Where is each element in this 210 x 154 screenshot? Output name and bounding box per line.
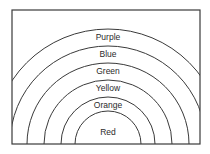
- band-label-blue: Blue: [99, 49, 116, 59]
- band-label-orange: Orange: [94, 100, 123, 110]
- diagram-frame: [12, 10, 200, 144]
- band-label-purple: Purple: [96, 32, 121, 42]
- rainbow-arc-diagram: Purple Blue Green Yellow Orange Red: [0, 0, 210, 154]
- band-label-red: Red: [100, 127, 116, 137]
- label-group: Purple Blue Green Yellow Orange Red: [94, 32, 123, 137]
- band-label-green: Green: [96, 66, 120, 76]
- band-label-yellow: Yellow: [96, 83, 121, 93]
